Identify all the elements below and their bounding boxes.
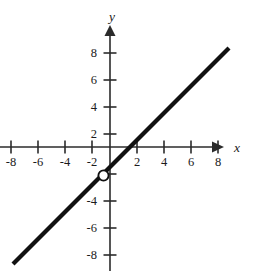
y-tick-label-8: 8 <box>91 46 97 60</box>
x-tick-label-8: 8 <box>215 155 221 169</box>
y-tick-label-2: 2 <box>91 127 97 141</box>
plotted-line <box>13 48 229 264</box>
y-axis <box>104 25 117 271</box>
y-axis-label: y <box>107 9 115 24</box>
x-tick-label--8: -8 <box>6 155 16 169</box>
graph-figure: . <box>0 0 261 271</box>
x-tick-label--4: -4 <box>60 155 71 169</box>
y-tick-label--8: -8 <box>87 248 97 262</box>
y-tick-label--4: -4 <box>87 194 98 208</box>
y-axis-arrow <box>105 25 116 36</box>
open-circle-hole <box>98 170 108 180</box>
x-tick-label-6: 6 <box>188 155 194 169</box>
x-tick-label-2: 2 <box>134 155 140 169</box>
x-tick-label-4: 4 <box>161 155 168 169</box>
y-tick-label--6: -6 <box>87 221 97 235</box>
x-axis-label: x <box>233 140 240 155</box>
x-tick-label--2: -2 <box>87 155 97 169</box>
x-tick-label--6: -6 <box>33 155 43 169</box>
y-tick-label-6: 6 <box>91 73 97 87</box>
plotted-line-group <box>13 48 229 264</box>
x-axis <box>0 141 224 154</box>
y-tick-labels: 8 6 4 2 -4 -6 -8 <box>87 46 98 262</box>
y-tick-label-4: 4 <box>91 100 98 114</box>
coordinate-plane: -8 -6 -4 -2 2 4 6 8 8 6 4 2 -4 -6 -8 x y <box>0 0 261 271</box>
